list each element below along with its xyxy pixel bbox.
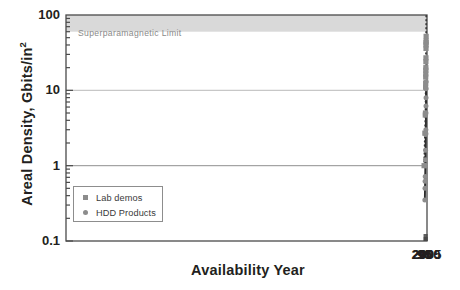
data-point-square [423,55,428,60]
data-point-circle [422,198,427,203]
data-point-circle [423,186,428,191]
legend-item-lab-demos: Lab demos [79,190,162,205]
data-point-circle [423,163,428,168]
data-point-circle [424,86,429,91]
y-axis-label-text: Areal Density, Gbits/in [19,48,35,206]
data-point-circle [423,103,428,108]
superparamagnetic-limit-label: Superparamagnetic Limit [78,28,182,38]
legend-item-hdd-products: HDD Products [79,205,162,220]
y-axis-label-exponent: 2 [17,42,28,47]
chart-legend: Lab demos HDD Products [73,186,163,222]
chart-plot-area [0,0,460,290]
data-point-circle [423,157,428,162]
x-axis-label-text: Availability Year [191,262,305,278]
chart-figure: Superparamagnetic Limit Areal Density, G… [0,0,460,290]
data-point-circle [423,179,428,184]
data-point-square [423,65,428,70]
legend-label-hdd-products: HDD Products [96,208,156,218]
data-point-circle [423,111,428,116]
y-tick-label: 0.1 [8,233,60,248]
legend-marker-square-icon [79,195,91,200]
x-axis-ticks [424,234,427,241]
data-point-circle [424,79,429,84]
legend-label-lab-demos: Lab demos [96,193,142,203]
y-tick-label: 1 [8,158,60,173]
y-axis-label: Areal Density, Gbits/in2 [17,14,35,234]
data-point-circle [423,174,428,179]
y-axis-ticks [66,18,73,241]
data-point-square [423,39,428,44]
legend-marker-circle-icon [79,210,91,215]
x-axis-label: Availability Year [0,262,460,278]
y-tick-label: 10 [8,82,60,97]
data-point-square [424,34,429,39]
data-point-circle [424,95,429,100]
data-point-circle [423,148,428,153]
data-point-circle [423,127,428,132]
y-tick-label: 100 [8,7,60,22]
x-tick-label: 2005 [397,247,457,262]
